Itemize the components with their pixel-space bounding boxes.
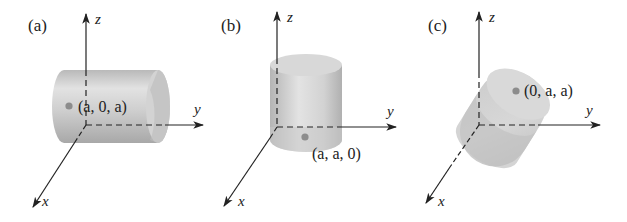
figure-canvas: (a) z y x (a, 0, a) (b): [0, 0, 627, 222]
z-axis-label-a: z: [94, 11, 101, 27]
x-axis-a: [33, 142, 75, 207]
panel-a: (a) z y x (a, 0, a): [28, 11, 203, 209]
point-label-b: (a, a, 0): [312, 145, 361, 163]
z-axis-label-c: z: [488, 9, 495, 25]
y-axis-label-b: y: [385, 103, 394, 119]
y-axis-label-a: y: [192, 101, 201, 117]
point-c: [512, 87, 519, 94]
point-a: [65, 102, 72, 109]
panel-b: (b) z y x (a, a, 0): [221, 9, 396, 209]
point-b: [301, 133, 308, 140]
panel-label-c: (c): [428, 16, 447, 35]
x-axis-label-b: x: [237, 193, 245, 209]
panel-label-a: (a): [28, 16, 47, 35]
x-axis-label-c: x: [437, 193, 445, 209]
point-label-c: (0, a, a): [524, 82, 573, 100]
panel-c: (c) z y x (0, a, a): [426, 9, 600, 209]
x-axis-b: [224, 138, 270, 206]
panel-label-b: (b): [221, 16, 241, 35]
x-axis-label-a: x: [41, 193, 49, 209]
y-axis-label-c: y: [584, 102, 593, 118]
cylinder-c: [447, 58, 559, 180]
point-label-a: (a, 0, a): [78, 98, 127, 116]
z-axis-label-b: z: [286, 9, 293, 25]
